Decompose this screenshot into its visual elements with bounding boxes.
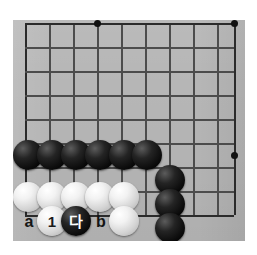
star-point-top-right-area-icon [231,20,238,27]
grid-line-horizontal [25,95,234,97]
stone-black[interactable]: 다 [61,206,91,236]
stone-move-label: 다 [61,206,91,236]
go-board[interactable]: 1다 ab [13,20,245,241]
point-label-a[interactable]: a [16,209,42,235]
grid-line-vertical [234,23,236,215]
star-point-top-left-area-icon [94,20,101,27]
grid-line-horizontal [25,47,234,49]
grid-line-horizontal [25,23,234,25]
grid-line-horizontal [25,119,234,121]
star-point-right-side-icon [231,152,238,159]
point-label-b[interactable]: b [88,209,114,235]
go-diagram-screenshot: 1다 ab [0,0,257,255]
grid-line-horizontal [25,71,234,73]
stone-black[interactable] [132,140,162,170]
stone-black[interactable] [155,213,185,241]
